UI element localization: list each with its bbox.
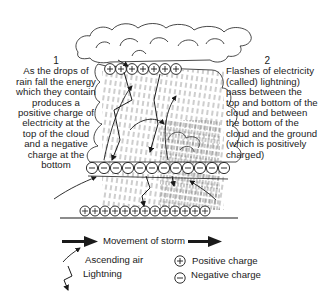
negative-charge-icon [175, 273, 185, 283]
movement-arrow-left-icon [62, 236, 98, 247]
legend-lightning: Lightning [83, 268, 122, 279]
legend-ascending-air: Ascending air [85, 254, 143, 265]
legend-negative-charge: Negative charge [191, 269, 261, 280]
legend-movement-of-storm: Movement of storm [103, 235, 185, 246]
legend-graphics [0, 0, 318, 299]
positive-charge-icon [175, 256, 185, 266]
movement-arrow-right-icon [188, 236, 222, 247]
ascending-air-icon [63, 248, 80, 262]
legend-positive-charge: Positive charge [192, 255, 258, 266]
lightning-icon [64, 266, 72, 290]
